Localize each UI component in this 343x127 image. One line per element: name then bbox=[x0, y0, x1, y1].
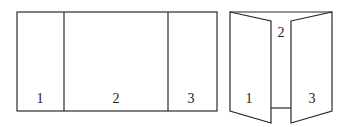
folded-left-flap bbox=[230, 12, 271, 123]
flat-panel-1-label: 1 bbox=[37, 91, 44, 106]
folded-right-flap bbox=[291, 12, 332, 123]
folded-panel-1-label: 1 bbox=[246, 91, 253, 106]
flat-brochure: 1 2 3 bbox=[17, 12, 217, 111]
folded-panel-3-label: 3 bbox=[309, 91, 316, 106]
flat-panel-3-label: 3 bbox=[188, 91, 195, 106]
folded-brochure: 2 1 3 bbox=[230, 12, 332, 123]
flat-panel-2-label: 2 bbox=[113, 91, 120, 106]
folded-panel-2-label: 2 bbox=[278, 25, 285, 40]
gate-fold-diagram: 1 2 3 2 1 3 bbox=[0, 0, 343, 127]
